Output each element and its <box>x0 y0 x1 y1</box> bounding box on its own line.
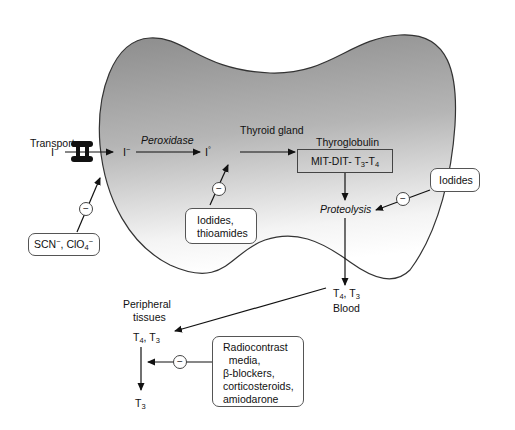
inhibit-icon-transport: − <box>79 202 93 216</box>
inhibit-icon-peripheral: − <box>173 355 187 369</box>
peripheral-t3: T3 <box>135 397 146 410</box>
proteolysis-label: Proteolysis <box>320 203 371 216</box>
inhibitor-box-iodides-thioamides: Iodides, thioamides <box>185 208 257 244</box>
blood-label: Blood <box>333 302 360 315</box>
blood-to-peripheral-arrow <box>175 288 326 331</box>
inhibitor-box-peripheral-drugs: Radiocontrast media, β-blockers, cortico… <box>212 336 304 407</box>
thyroid-gland-shape <box>99 35 455 279</box>
peroxidase-label: Peroxidase <box>141 134 194 147</box>
iodide-outside: I− <box>51 146 58 159</box>
peripheral-tissues-label: Peripheral tissues <box>123 298 171 324</box>
thyroid-gland-label: Thyroid gland <box>240 124 304 137</box>
inhibitor-box-iodides: Iodides <box>430 168 480 192</box>
thyroglobulin-box: MIT-DIT- T3-T4 <box>297 149 393 173</box>
inhibit-icon-proteolysis: − <box>396 192 410 206</box>
iodide-inside: I− <box>123 146 130 159</box>
thyroglobulin-label: Thyroglobulin <box>316 136 379 149</box>
peripheral-hormones: T4, T3 <box>133 331 160 344</box>
inhibit-icon-peroxidase: − <box>212 182 226 196</box>
blood-hormones: T4, T3 <box>333 287 360 300</box>
inhibitor-box-scn-perchlorate: SCN−, ClO4− <box>28 233 100 256</box>
active-iodine: I° <box>205 146 211 159</box>
